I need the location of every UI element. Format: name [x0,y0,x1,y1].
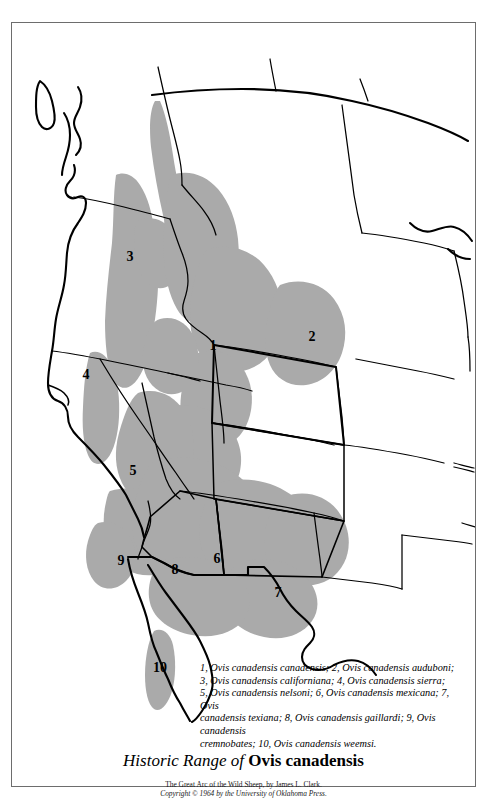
map-label-9: 9 [118,554,125,568]
map-svg [12,23,475,723]
figure-credit: The Great Arc of the Wild Sheep, by Jame… [12,780,475,799]
historic-range-shading [83,101,349,710]
map-label-10: 10 [153,661,167,675]
map-label-1: 1 [210,339,217,353]
map-label-5: 5 [130,464,137,478]
map-label-7: 7 [275,586,282,600]
map-label-6: 6 [214,552,221,566]
figure-page: 1 2 3 4 5 6 7 8 9 10 1, Ovis canadensis … [0,0,491,807]
map-label-8: 8 [172,563,179,577]
caption-line-5: cremnobates; 10, Ovis canadensis weemsi. [200,738,465,751]
map-label-4: 4 [83,368,90,382]
caption-line-2: 3, Ovis canadensis californiana; 4, Ovis… [200,675,465,688]
credit-source-line: The Great Arc of the Wild Sheep, by Jame… [12,780,475,789]
credit-copyright-line: Copyright © 1964 by the University of Ok… [12,789,475,798]
map-label-3: 3 [127,250,134,264]
caption-line-3: 5, Ovis canadensis nelsoni; 6, Ovis cana… [200,687,465,712]
figure-frame: 1 2 3 4 5 6 7 8 9 10 1, Ovis canadensis … [11,22,476,787]
subspecies-key-caption: 1, Ovis canadensis canadensis; 2, Ovis c… [200,662,465,750]
range-map: 1 2 3 4 5 6 7 8 9 10 [12,23,475,723]
figure-title: Historic Range of Ovis canadensis [12,751,475,771]
caption-line-1: 1, Ovis canadensis canadensis; 2, Ovis c… [200,662,465,675]
figure-title-italic-part: Historic Range of [123,751,244,770]
map-label-2: 2 [309,330,316,344]
figure-title-species-name: Ovis canadensis [248,751,364,770]
caption-line-4: canadensis texiana; 8, Ovis canadensis g… [200,712,465,737]
